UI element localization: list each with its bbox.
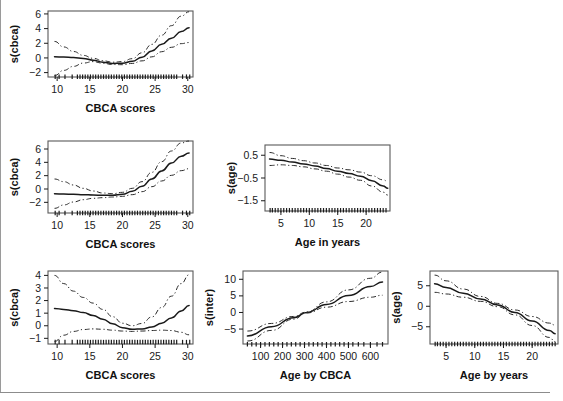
y-tick-label: 2 — [35, 294, 41, 306]
x-axis: 1015202530 — [51, 213, 193, 231]
plot-frame — [265, 145, 390, 211]
y-tick-label: −2 — [29, 66, 41, 78]
plot-frame — [243, 271, 388, 344]
series-upper-ci — [55, 141, 190, 194]
y-tick-label: 0 — [35, 183, 41, 195]
x-tick-label: 5 — [278, 217, 284, 229]
chart-panel-top-cbca: 1015202530−20246CBCA scoress(cbca) — [0, 2, 205, 117]
x-tick-label: 15 — [84, 219, 96, 231]
y-axis-title: s(cbca) — [8, 24, 20, 63]
y-axis: −101234 — [29, 269, 48, 344]
series-lower-ci — [247, 295, 382, 341]
chart-panel-mid-cbca: 1015202530−20246CBCA scoress(cbca) — [0, 132, 205, 253]
y-axis-title: s(age) — [390, 291, 402, 324]
plot-frame — [48, 141, 193, 213]
x-tick-label: 10 — [51, 350, 63, 362]
y-tick-label: 4 — [35, 269, 41, 281]
y-tick-label: 0 — [230, 306, 236, 318]
x-tick-label: 15 — [84, 83, 96, 95]
x-tick-label: 400 — [318, 350, 336, 362]
series-upper-ci — [435, 275, 556, 325]
x-axis: 5101520 — [443, 344, 538, 362]
series-lower-ci — [55, 169, 190, 209]
x-tick-label: 15 — [332, 217, 344, 229]
x-tick-label: 300 — [296, 350, 314, 362]
y-tick-label: 10 — [224, 273, 236, 285]
y-axis: −50510 — [224, 273, 243, 335]
x-tick-label: 20 — [117, 350, 129, 362]
x-tick-label: 5 — [443, 350, 449, 362]
x-tick-label: 10 — [303, 217, 315, 229]
series-lower-ci — [55, 43, 190, 76]
chart-panel-bot-inter: 100200300400500600−50510Age by CBCAs(int… — [193, 262, 400, 384]
x-axis-title: Age by CBCA — [280, 369, 352, 381]
x-tick-label: 20 — [117, 219, 129, 231]
y-tick-label: −0.5 — [237, 172, 258, 184]
x-tick-label: 15 — [498, 350, 510, 362]
y-tick-label: −5 — [411, 320, 423, 332]
series-upper-ci — [55, 12, 190, 62]
x-tick-label: 30 — [182, 219, 194, 231]
x-tick-label: 500 — [340, 350, 358, 362]
x-tick-label: 200 — [274, 350, 292, 362]
series-upper-ci — [247, 272, 382, 331]
y-tick-label: 0.5 — [243, 149, 258, 161]
x-axis-title: Age by years — [460, 369, 528, 381]
y-tick-label: −5 — [224, 323, 236, 335]
x-tick-label: 25 — [149, 83, 161, 95]
y-axis-title: s(age) — [225, 161, 237, 194]
y-axis: −20246 — [29, 143, 48, 208]
bottom-border-rule — [0, 392, 550, 393]
series-lower-ci — [55, 329, 190, 342]
x-tick-label: 10 — [51, 219, 63, 231]
y-tick-label: 4 — [35, 22, 41, 34]
y-axis: 0.5−0.5−1.5 — [237, 149, 265, 207]
x-axis-title: CBCA scores — [86, 102, 156, 114]
x-axis-title: CBCA scores — [86, 369, 156, 381]
series-fit — [55, 153, 190, 195]
series-fit — [55, 28, 190, 64]
y-axis-title: s(cbca) — [8, 157, 20, 196]
y-tick-label: 1 — [35, 307, 41, 319]
y-tick-label: 5 — [417, 279, 423, 291]
x-axis: 100200300400500600 — [252, 344, 380, 362]
x-axis: 1015202530 — [51, 77, 193, 95]
x-tick-label: 20 — [117, 83, 129, 95]
series-fit — [435, 284, 556, 334]
plot-frame — [430, 271, 558, 344]
x-axis: 5101520 — [278, 211, 372, 229]
x-tick-label: 30 — [182, 350, 194, 362]
x-tick-label: 25 — [149, 219, 161, 231]
chart-panel-mid-age: 51015200.5−0.5−1.5Age in yearss(age) — [215, 136, 402, 251]
x-tick-label: 30 — [182, 83, 194, 95]
x-tick-label: 15 — [84, 350, 96, 362]
y-tick-label: 4 — [35, 156, 41, 168]
x-axis: 1015202530 — [51, 344, 193, 362]
series-fit — [270, 159, 388, 188]
y-tick-label: 5 — [230, 289, 236, 301]
chart-panel-bot-age: 5101520−505Age by yearss(age) — [380, 262, 563, 384]
series-upper-ci — [270, 153, 388, 182]
x-tick-label: 600 — [362, 350, 380, 362]
x-tick-label: 10 — [51, 83, 63, 95]
y-tick-label: 2 — [35, 37, 41, 49]
x-tick-label: 20 — [526, 350, 538, 362]
series-fit — [55, 306, 190, 330]
y-axis: −505 — [411, 279, 430, 332]
y-tick-label: 0 — [35, 319, 41, 331]
y-tick-label: 6 — [35, 143, 41, 155]
y-axis-title: s(inter) — [203, 289, 215, 327]
x-tick-label: 20 — [360, 217, 372, 229]
y-tick-label: 6 — [35, 8, 41, 20]
x-tick-label: 10 — [469, 350, 481, 362]
x-tick-label: 25 — [149, 350, 161, 362]
y-tick-label: 2 — [35, 169, 41, 181]
plot-frame — [48, 271, 193, 344]
rug-marks — [270, 208, 386, 213]
y-tick-label: 0 — [417, 300, 423, 312]
y-axis-title: s(cbca) — [8, 288, 20, 327]
chart-panel-bot-cbca: 1015202530−101234CBCA scoress(cbca) — [0, 262, 205, 384]
x-axis-title: CBCA scores — [86, 238, 156, 250]
y-tick-label: 3 — [35, 282, 41, 294]
